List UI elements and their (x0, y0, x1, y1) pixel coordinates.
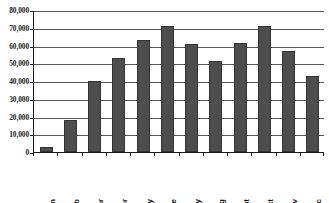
x-tick-label: Sept (243, 199, 251, 203)
bar (137, 40, 150, 152)
x-tick-mark (154, 153, 155, 156)
x-tick-label: Feb (73, 199, 81, 203)
y-tick-label: 80,000 (0, 7, 29, 14)
x-tick-mark (33, 153, 34, 156)
x-tick-mark (300, 153, 301, 156)
y-tick-label: 20,000 (0, 114, 29, 121)
x-tick-label: June (170, 199, 178, 203)
x-tick-label: Nov (291, 199, 299, 203)
x-tick-mark (57, 153, 58, 156)
bar (234, 43, 247, 152)
x-tick-mark (276, 153, 277, 156)
x-axis: JanFebMarAprMayJuneJulyAugSeptOctNovDec (33, 157, 324, 203)
x-tick-label: Oct (267, 199, 275, 203)
x-tick-mark (203, 153, 204, 156)
x-tick-mark (82, 153, 83, 156)
bar (40, 147, 53, 152)
plot-area (33, 11, 324, 153)
y-tick-label: 30,000 (0, 96, 29, 103)
bar (209, 61, 222, 152)
bar (88, 81, 101, 152)
x-tick-mark (323, 153, 324, 156)
x-tick-mark (130, 153, 131, 156)
x-tick-mark (179, 153, 180, 156)
bar (258, 26, 271, 152)
bar (306, 76, 319, 152)
bar (112, 58, 125, 152)
bar (161, 26, 174, 152)
y-axis: 010,00020,00030,00040,00050,00060,00070,… (0, 0, 32, 203)
bar (282, 51, 295, 152)
x-tick-label: May (146, 199, 154, 203)
x-tick-label: Dec (315, 199, 323, 203)
bars-group (34, 11, 324, 152)
y-tick-label: 70,000 (0, 25, 29, 32)
x-tick-label: Mar (97, 199, 105, 203)
y-tick-label: 40,000 (0, 78, 29, 85)
x-tick-label: Aug (218, 199, 226, 203)
x-tick-label: Jan (49, 199, 57, 203)
x-tick-mark (106, 153, 107, 156)
x-tick-label: July (194, 199, 202, 203)
bar-chart: 010,00020,00030,00040,00050,00060,00070,… (0, 0, 329, 203)
y-tick-label: 10,000 (0, 132, 29, 139)
y-tick-label: 0 (0, 149, 29, 156)
bar (185, 44, 198, 152)
x-tick-label: Apr (121, 199, 129, 203)
y-tick-label: 50,000 (0, 61, 29, 68)
x-tick-mark (251, 153, 252, 156)
y-tick-label: 60,000 (0, 43, 29, 50)
x-tick-mark (227, 153, 228, 156)
bar (64, 120, 77, 152)
